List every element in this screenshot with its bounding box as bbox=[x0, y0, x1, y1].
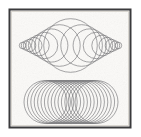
figure-container bbox=[0, 0, 141, 137]
figure-canvas bbox=[0, 0, 141, 137]
